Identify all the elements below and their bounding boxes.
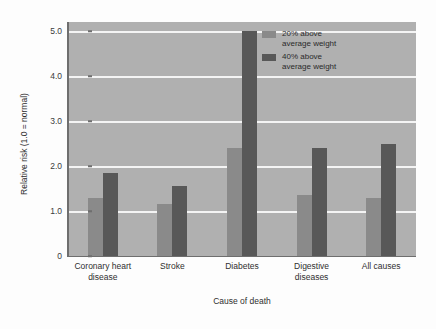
legend-item: 40% above average weight — [262, 52, 336, 71]
y-axis-line — [67, 22, 69, 256]
y-tick-label: 1.0 — [50, 206, 62, 216]
bar — [366, 198, 381, 257]
x-tick-label-line: diseases — [266, 272, 358, 283]
y-tick-mark — [88, 165, 92, 167]
y-tick-mark — [88, 255, 92, 257]
legend-label: 20% above average weight — [282, 29, 336, 48]
bar — [297, 195, 312, 256]
legend-label: 40% above average weight — [282, 52, 336, 71]
x-axis-title: Cause of death — [68, 296, 416, 306]
y-tick-label: 4.0 — [50, 71, 62, 81]
legend-item: 20% above average weight — [262, 29, 336, 48]
legend-swatch — [262, 54, 276, 61]
legend-swatch — [262, 31, 276, 38]
y-axis-title: Relative risk (1.0 = normal) — [19, 74, 29, 214]
y-tick-mark — [88, 210, 92, 212]
x-tick-label-line: disease — [57, 272, 149, 283]
y-tick-label: 2.0 — [50, 161, 62, 171]
bar-chart-figure: 01.02.03.04.05.0 Relative risk (1.0 = no… — [0, 0, 436, 329]
bar — [312, 148, 327, 256]
y-tick-label: 0 — [57, 251, 62, 261]
bar — [172, 186, 187, 256]
y-tick-label: 5.0 — [50, 26, 62, 36]
bar — [103, 173, 118, 256]
y-tick-mark — [88, 120, 92, 122]
x-tick-label: All causes — [335, 261, 427, 272]
y-tick-mark — [88, 75, 92, 77]
x-tick-label-line: All causes — [335, 261, 427, 272]
bar — [88, 198, 103, 257]
y-tick-label: 3.0 — [50, 116, 62, 126]
bar — [227, 148, 242, 256]
chart-legend: 20% above average weight40% above averag… — [262, 29, 336, 75]
bar — [242, 31, 257, 256]
bar — [381, 144, 396, 257]
plot-area — [68, 22, 416, 256]
y-tick-mark — [88, 30, 92, 32]
x-axis-line — [67, 256, 416, 258]
bar — [157, 204, 172, 256]
